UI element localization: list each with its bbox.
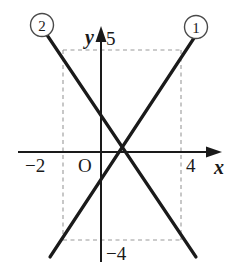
y-axis-arrowhead (96, 26, 107, 42)
coordinate-plane-svg (0, 0, 236, 278)
x-axis-label: x (214, 157, 224, 177)
graph-figure: 2 1 y x O −2 4 5 −4 (0, 0, 236, 278)
line-2-callout-number: 2 (35, 19, 49, 34)
origin-label: O (78, 156, 92, 175)
y-tick-label-neg4: −4 (106, 244, 126, 263)
y-axis-label: y (85, 27, 94, 47)
x-tick-label-4: 4 (186, 156, 196, 175)
line-1-callout-number: 1 (189, 21, 203, 36)
x-tick-label-neg2: −2 (25, 156, 45, 175)
y-axis (96, 26, 107, 262)
y-tick-label-5: 5 (106, 29, 116, 48)
